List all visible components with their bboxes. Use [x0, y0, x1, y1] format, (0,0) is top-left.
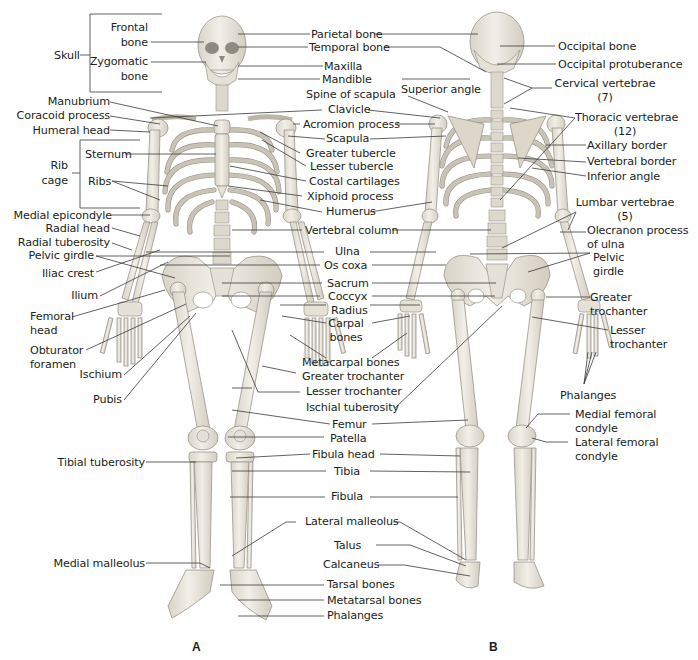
label-thoracic-vertebrae-line2: (12): [575, 125, 675, 138]
label-spine-of-scapula: Spine of scapula: [306, 88, 396, 101]
label-scapula: Scapula: [326, 132, 369, 145]
label-medial-malleolus: Medial malleolus: [20, 557, 145, 570]
label-humerus: Humerus: [326, 205, 376, 218]
label-superior-angle: Superior angle: [401, 83, 481, 96]
label-lumbar-vertebrae-line1: Lumbar vertebrae: [575, 196, 675, 209]
label-greater-trochanter-right-line2: trochanter: [590, 305, 647, 318]
label-fibula-head: Fibula head: [312, 448, 375, 461]
label-mandible: Mandible: [322, 73, 372, 86]
label-pelvic-girdle-right-line1: Pelvic: [593, 251, 624, 264]
label-frontal-bone-line2: bone: [100, 36, 148, 49]
label-medial-epicondyle: Medial epicondyle: [0, 209, 112, 222]
label-manubrium: Manubrium: [20, 95, 110, 108]
label-clavicle: Clavicle: [328, 103, 370, 116]
panel-letter-a: A: [192, 640, 201, 654]
label-iliac-crest: Iliac crest: [20, 267, 94, 280]
label-coccyx: Coccyx: [328, 290, 367, 303]
label-axillary-border: Axillary border: [587, 139, 667, 152]
label-rib-cage-line2: cage: [30, 174, 68, 187]
label-lesser-tubercle: Lesser tubercle: [310, 160, 393, 173]
label-femoral-head-line2: head: [30, 324, 57, 337]
label-lesser-trochanter: Lesser trochanter: [306, 385, 402, 398]
label-patella: Patella: [330, 432, 366, 445]
label-lesser-trochanter-right-line2: trochanter: [610, 338, 667, 351]
label-carpal-bones-line2: bones: [316, 331, 376, 344]
label-frontal-bone-line1: Frontal: [100, 21, 148, 34]
label-femur: Femur: [332, 418, 367, 431]
label-skull: Skull: [54, 49, 80, 62]
label-cervical-vertebrae-line2: (7): [550, 91, 660, 104]
label-occipital-protuberance: Occipital protuberance: [558, 58, 682, 71]
label-ilium: Ilium: [40, 289, 98, 302]
label-radius: Radius: [331, 304, 368, 317]
label-radial-head: Radial head: [20, 222, 110, 235]
label-medial-femoral-condyle-line1: Medial femoral: [575, 408, 656, 421]
label-fibula: Fibula: [331, 490, 363, 503]
label-occipital-bone: Occipital bone: [558, 40, 636, 53]
label-tibia: Tibia: [334, 465, 360, 478]
label-medial-femoral-condyle-line2: condyle: [575, 422, 618, 435]
anterior-skeleton: [100, 16, 345, 620]
label-pelvic-girdle: Pelvic girdle: [0, 249, 94, 262]
label-vertebral-border: Vertebral border: [587, 155, 676, 168]
label-greater-trochanter-right-line1: Greater: [590, 291, 632, 304]
label-costal-cartilages: Costal cartilages: [309, 175, 400, 188]
skeleton-diagram: .b { fill: url(#bone); stroke: #9a958c; …: [0, 0, 698, 660]
label-inferior-angle: Inferior angle: [587, 170, 660, 183]
label-phalanges-right: Phalanges: [560, 389, 616, 402]
label-metacarpal-bones: Metacarpal bones: [302, 356, 399, 369]
label-greater-trochanter: Greater trochanter: [302, 370, 404, 383]
label-lateral-malleolus: Lateral malleolus: [305, 515, 399, 528]
panel-letter-b: B: [489, 640, 498, 654]
label-phalanges-center: Phalanges: [327, 609, 383, 622]
label-os-coxa: Os coxa: [324, 259, 367, 272]
label-vertebral-column: Vertebral column: [305, 224, 399, 237]
label-olecranon-process-line1: Olecranon process: [587, 224, 688, 237]
label-olecranon-process-line2: of ulna: [587, 238, 624, 251]
label-parietal-bone: Parietal bone: [311, 28, 383, 41]
label-acromion-process: Acromion process: [303, 118, 400, 131]
label-ischial-tuberosity: Ischial tuberosity: [306, 401, 399, 414]
label-coracoid-process: Coracoid process: [0, 109, 110, 122]
label-rib-cage-line1: Rib: [30, 159, 68, 172]
label-tarsal-bones: Tarsal bones: [327, 578, 395, 591]
label-ischium: Ischium: [60, 368, 122, 381]
label-cervical-vertebrae-line1: Cervical vertebrae: [550, 77, 660, 90]
label-sternum: Sternum: [85, 148, 132, 161]
label-tibial-tuberosity: Tibial tuberosity: [20, 456, 145, 469]
label-ribs: Ribs: [88, 175, 111, 188]
label-humeral-head: Humeral head: [10, 124, 110, 137]
label-carpal-bones-line1: Carpal: [316, 317, 376, 330]
label-femoral-head-line1: Femoral: [30, 310, 74, 323]
label-zygomatic-bone-line2: bone: [88, 70, 148, 83]
label-metatarsal-bones: Metatarsal bones: [327, 594, 421, 607]
label-lesser-trochanter-right-line1: Lesser: [610, 324, 645, 337]
label-pubis: Pubis: [60, 393, 122, 406]
label-xiphoid-process: Xiphoid process: [307, 190, 393, 203]
label-lateral-femoral-condyle-line1: Lateral femoral: [575, 436, 658, 449]
label-thoracic-vertebrae-line1: Thoracic vertebrae: [575, 111, 675, 124]
label-maxilla: Maxilla: [324, 60, 362, 73]
label-pelvic-girdle-right-line2: girdle: [593, 265, 624, 278]
label-radial-tuberosity: Radial tuberosity: [0, 236, 110, 249]
label-greater-tubercle: Greater tubercle: [306, 147, 396, 160]
label-sacrum: Sacrum: [327, 277, 369, 290]
label-obturator-foramen-line1: Obturator: [30, 344, 83, 357]
label-ulna: Ulna: [335, 245, 360, 258]
label-calcaneus: Calcaneus: [323, 558, 379, 571]
label-talus: Talus: [334, 539, 361, 552]
label-zygomatic-bone-line1: Zygomatic: [88, 55, 148, 68]
label-temporal-bone: Temporal bone: [309, 41, 390, 54]
label-lateral-femoral-condyle-line2: condyle: [575, 450, 618, 463]
label-lumbar-vertebrae-line2: (5): [575, 210, 675, 223]
